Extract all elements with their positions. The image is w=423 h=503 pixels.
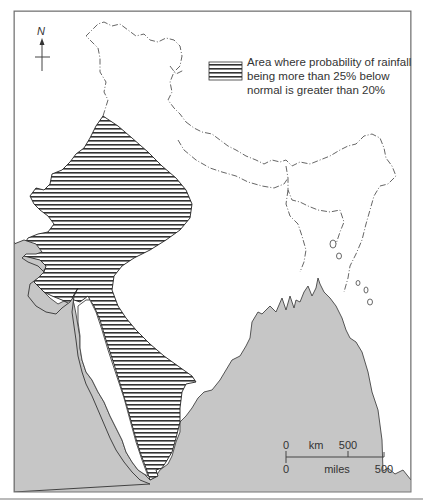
scale-miles-zero: 0: [283, 463, 289, 475]
scale-miles-unit: miles: [324, 463, 350, 475]
legend-line-1: Area where probability of rainfall: [247, 55, 417, 69]
scale-km-500: 500: [339, 439, 357, 451]
legend-line-2: being more than 25% below: [247, 69, 417, 83]
legend: Area where probability of rainfall being…: [247, 55, 417, 97]
scale-km-zero: 0: [283, 439, 289, 451]
north-label: N: [37, 25, 45, 37]
scale-miles-500: 500: [375, 463, 393, 475]
scale-km-unit: km: [309, 439, 324, 451]
legend-swatch: [209, 62, 242, 80]
legend-line-3: normal is greater than 20%: [247, 83, 417, 97]
